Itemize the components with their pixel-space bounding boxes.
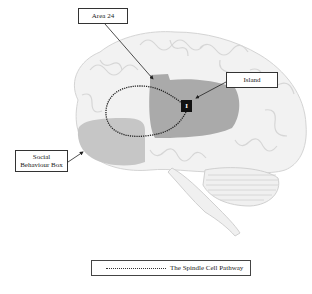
island-marker: I [181,100,192,112]
social-behaviour-box-text: Social Behaviour Box [20,153,63,169]
legend-dotted-line-icon [106,268,166,269]
island-label-text: Island [243,76,260,84]
island-marker-text: I [185,102,188,110]
brain-illustration [0,0,312,294]
legend: The Spindle Cell Pathway [91,260,251,276]
frontal-region [78,118,145,165]
area24-label: Area 24 [78,8,128,24]
island-label: Island [226,72,278,88]
area24-label-text: Area 24 [92,12,114,20]
social-behaviour-box-label: Social Behaviour Box [15,150,68,172]
legend-text: The Spindle Cell Pathway [170,264,243,272]
social-box-arrow [68,152,83,162]
